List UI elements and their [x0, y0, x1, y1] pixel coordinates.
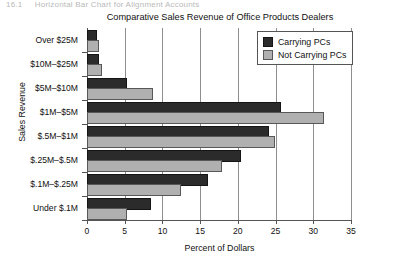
- bar: [87, 88, 153, 100]
- bar-chart: Comparative Sales Revenue of Office Prod…: [0, 0, 394, 270]
- bar: [87, 136, 275, 148]
- x-axis-tick-label: 5: [122, 226, 127, 236]
- chart-title: Comparative Sales Revenue of Office Prod…: [86, 12, 354, 22]
- y-axis-tick-label: $.1M–$.25M: [30, 179, 78, 189]
- y-axis-tick: [82, 76, 87, 77]
- x-axis-tick: [162, 220, 163, 224]
- x-axis-tick-label: 35: [346, 226, 356, 236]
- x-axis-tick-label: 25: [271, 226, 281, 236]
- y-axis-tick: [82, 220, 87, 221]
- bar: [87, 208, 127, 220]
- x-axis-title: Percent of Dollars: [87, 243, 352, 253]
- y-axis-tick: [82, 172, 87, 173]
- x-axis-tick: [351, 220, 352, 224]
- legend-item-label: Not Carrying PCs: [278, 50, 346, 60]
- y-axis-tick: [82, 124, 87, 125]
- y-axis-tick-label: $1M–$5M: [40, 107, 78, 117]
- x-axis-tick: [238, 220, 239, 224]
- bar: [87, 64, 102, 76]
- x-axis-tick: [276, 220, 277, 224]
- x-axis-tick: [87, 220, 88, 224]
- bar: [87, 40, 99, 52]
- y-axis-tick-label: $.5M–$1M: [37, 131, 78, 141]
- y-axis-tick: [82, 196, 87, 197]
- x-axis-tick: [313, 220, 314, 224]
- bar: [87, 160, 222, 172]
- dark-square-icon: [263, 37, 273, 47]
- y-axis-title: Sales Revenue: [17, 64, 27, 160]
- gridline: [238, 28, 239, 220]
- legend-item-label: Carrying PCs: [278, 37, 330, 47]
- y-axis-tick: [82, 100, 87, 101]
- bar: [87, 184, 181, 196]
- gridline: [200, 28, 201, 220]
- bar: [87, 112, 324, 124]
- chart-legend: Carrying PCs Not Carrying PCs: [257, 31, 353, 65]
- y-axis-tick-label: Under $.1M: [33, 203, 78, 213]
- y-axis-tick: [82, 52, 87, 53]
- x-axis-tick: [125, 220, 126, 224]
- y-axis-tick-label: $10M–$25M: [30, 59, 78, 69]
- y-axis-tick-label: $.25M–$.5M: [30, 155, 78, 165]
- y-axis-tick: [82, 148, 87, 149]
- x-axis-tick-label: 20: [233, 226, 243, 236]
- x-axis-tick: [200, 220, 201, 224]
- x-axis-tick-label: 10: [158, 226, 168, 236]
- y-axis-tick-label: Over $25M: [35, 35, 78, 45]
- x-axis-line: [87, 220, 352, 221]
- light-square-icon: [263, 50, 273, 60]
- y-axis-tick-label: $5M–$10M: [35, 83, 78, 93]
- x-axis-tick-label: 0: [85, 226, 90, 236]
- legend-item: Carrying PCs: [263, 35, 346, 48]
- x-axis-tick-label: 15: [195, 226, 205, 236]
- legend-item: Not Carrying PCs: [263, 48, 346, 61]
- x-axis-tick-label: 30: [309, 226, 319, 236]
